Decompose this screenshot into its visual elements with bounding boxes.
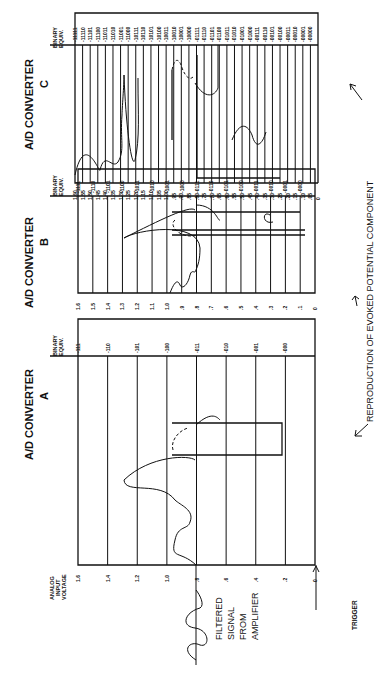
voltage-tick-label: .1 [297, 306, 303, 310]
voltage-tick-label: .8 [194, 306, 200, 310]
voltage-tick-label: .45 [247, 193, 253, 200]
voltage-tick-label: 1.2 [134, 575, 140, 582]
binary-code-label: -1011 [134, 180, 140, 193]
binary-code-label: -00000 [307, 26, 313, 42]
binary-code-label: -10001 [178, 26, 184, 42]
binary-code-label: -11110 [80, 27, 86, 42]
binary-code-label: -001 [253, 343, 259, 353]
converter-b-dashed-waveform [173, 220, 198, 236]
binary-code-label: -111 [75, 343, 81, 353]
binary-code-label: -1001 [164, 180, 170, 193]
binary-code-label: -10000 [186, 26, 192, 42]
converter-a: A/D CONVERTER A BINARY EQUIV. ANALOG INP… [23, 319, 319, 665]
binary-code-label: -11101 [87, 27, 93, 42]
binary-code-label: -010 [223, 343, 229, 353]
voltage-tick-label: 1.6 [75, 575, 81, 582]
voltage-tick-label: 1.6 [75, 303, 81, 310]
converter-c-letter: C [38, 80, 50, 88]
voltage-tick-label: 1.4 [105, 575, 111, 582]
converter-c-waveform [75, 75, 138, 175]
binary-code-label: -100 [164, 343, 170, 353]
binary-code-label: -00011 [285, 26, 291, 42]
caption-signal: SIGNAL [226, 607, 236, 640]
binary-code-label: -0100 [238, 180, 244, 193]
binary-code-label: -0111 [194, 181, 200, 193]
converter-b-letter: B [38, 238, 50, 246]
voltage-tick-label: .55 [231, 193, 237, 200]
binary-code-label: -11001 [118, 26, 124, 42]
voltage-tick-label: .9 [179, 306, 185, 310]
converter-c-title: A/D CONVERTER [23, 59, 35, 150]
voltage-tick-label: .4 [253, 306, 259, 310]
caption-filtered: FILTERED [214, 597, 224, 640]
voltage-tick-label: 1.1 [149, 303, 155, 310]
binary-code-label: -0010 [268, 180, 274, 193]
binary-code-label: -0011 [253, 180, 259, 193]
binary-code-label: -0110 [208, 180, 214, 193]
binary-code-label: -01101 [209, 26, 215, 42]
trigger-label: TRIGGER [351, 600, 358, 630]
binary-code-label: -00010 [292, 26, 298, 42]
binary-code-label: -10110 [140, 26, 146, 42]
converter-c-sample-window [172, 55, 280, 178]
reproduction-caption: REPRODUCTION OF EVOKED POTENTIAL COMPONE… [365, 180, 375, 422]
converter-a-waveform-end [196, 416, 220, 425]
binary-code-label: -1101 [105, 180, 111, 193]
binary-code-label: -0000 [297, 180, 303, 193]
voltage-tick-label: .05 [307, 193, 313, 200]
voltage-tick-label: .2 [282, 306, 288, 310]
converter-b-reproduction-trace [264, 214, 273, 222]
converter-a-waveform [124, 457, 196, 565]
voltage-tick-label: .8 [194, 578, 200, 582]
binary-code-label: -11100 [95, 27, 101, 42]
binary-code-label: -01001 [239, 26, 245, 42]
caption-amplifier: AMPLIFIER [250, 592, 260, 640]
binary-code-label: -10100 [156, 26, 162, 42]
binary-code-label: -00101 [269, 26, 275, 42]
voltage-tick-label: 0 [315, 197, 321, 200]
binary-code-label: -10011 [163, 26, 169, 42]
converter-a-gridlines [108, 356, 286, 565]
binary-code-label: -011 [194, 343, 200, 353]
voltage-tick-label: .3 [268, 306, 274, 310]
converter-b-title: A/D CONVERTER [23, 217, 35, 308]
voltage-tick-label: 1.25 [125, 190, 131, 200]
binary-code-label: -11011 [102, 27, 108, 42]
voltage-tick-label: .6 [223, 306, 229, 310]
voltage-tick-label: .6 [223, 578, 229, 582]
voltage-tick-label: .2 [282, 578, 288, 582]
voltage-tick-label: 0 [312, 307, 318, 310]
converter-b-gridlines [93, 196, 300, 293]
voltage-tick-label: .5 [238, 306, 244, 310]
binary-code-label: -101 [134, 343, 140, 353]
voltage-tick-label: .4 [253, 578, 259, 582]
binary-code-label: -1000 [179, 180, 185, 193]
binary-code-label: -11111 [72, 27, 78, 42]
binary-code-label: -01110 [201, 27, 207, 42]
binary-code-label: -1100 [119, 180, 125, 193]
converter-c-dashed-waveform [172, 60, 193, 78]
converter-a-dashed-waveform [172, 428, 188, 450]
converter-c-reproduction-trace [232, 126, 266, 144]
ad-converter-diagram: A/D CONVERTER C BINARY EQUIV. A/D CONVER… [0, 0, 388, 673]
voltage-tick-label: 1.4 [105, 303, 111, 310]
binary-code-label: -10010 [171, 26, 177, 42]
binary-code-label: -00001 [300, 26, 306, 42]
binary-code-label: -01011 [224, 26, 230, 42]
binary-code-label: -00110 [262, 26, 268, 42]
binary-code-label: -01100 [216, 26, 222, 42]
converter-a-sample-window [172, 423, 282, 455]
voltage-tick-label: 1.15 [140, 190, 146, 200]
binary-code-label: -1010 [149, 180, 155, 193]
voltage-tick-label: 0 [312, 579, 318, 582]
binary-code-label: -000 [282, 343, 288, 353]
converter-b-binary-header-2: EQUIV. [58, 177, 64, 196]
binary-code-label: -10101 [148, 26, 154, 42]
reproduction-arrow-a-icon [355, 424, 368, 436]
binary-code-label: -1110 [90, 181, 96, 193]
converter-c-waveform-end [195, 45, 218, 95]
binary-code-label: -01000 [247, 26, 253, 42]
reproduction-arrow-c-icon [350, 84, 362, 100]
voltage-tick-label: 1.05 [156, 190, 162, 200]
converter-a-letter: A [38, 392, 50, 400]
